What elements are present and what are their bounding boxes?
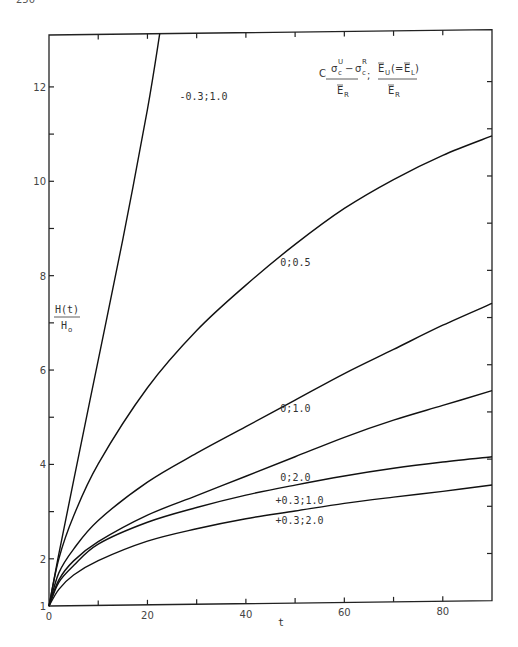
y-tick-label: 4 bbox=[40, 459, 46, 470]
svg-text:E: E bbox=[404, 63, 410, 74]
svg-text:(=: (= bbox=[391, 63, 403, 74]
svg-text:R: R bbox=[395, 91, 400, 99]
y-tick-label: 2 bbox=[40, 554, 46, 565]
x-tick-label: 0 bbox=[46, 611, 52, 622]
x-tick-label: 80 bbox=[436, 606, 449, 617]
curve-label: -0.3;1.0 bbox=[179, 91, 227, 102]
curve-labels: -0.3;1.00;0.50;1.00;2.0+0.3;1.0+0.3;2.0 bbox=[179, 91, 323, 527]
svg-text:E: E bbox=[388, 85, 394, 96]
y-axis-title-numerator: H(t) bbox=[55, 304, 79, 315]
svg-text:R: R bbox=[362, 58, 367, 66]
curve-label: 0;0.5 bbox=[280, 257, 310, 268]
x-tick-label: 20 bbox=[141, 610, 154, 621]
y-axis-title-denominator: H bbox=[61, 320, 67, 331]
chart: 020406080124681012 -0.3;1.00;0.50;1.00;2… bbox=[0, 0, 518, 647]
curve-0-1-0 bbox=[49, 303, 492, 606]
x-axis-title: t bbox=[278, 617, 284, 628]
svg-text:): ) bbox=[415, 63, 419, 74]
legend-separator: ; bbox=[367, 70, 370, 81]
curve-label: +0.3;2.0 bbox=[275, 515, 323, 526]
svg-text:E: E bbox=[337, 85, 343, 96]
legend-param2-numerator: E U (= E L ) bbox=[378, 63, 419, 77]
y-tick-label: 8 bbox=[40, 271, 46, 282]
svg-text:R: R bbox=[344, 91, 349, 99]
y-tick-label: 12 bbox=[33, 82, 46, 93]
ticks: 020406080124681012 bbox=[33, 30, 492, 622]
curve-label: +0.3;1.0 bbox=[275, 495, 323, 506]
y-tick-label: 1 bbox=[40, 601, 46, 612]
legend: C σ U c − σ R c E R ; E U (= E L ) bbox=[319, 58, 419, 99]
svg-text:σ: σ bbox=[355, 63, 362, 74]
curve--0-3-2-0 bbox=[49, 485, 492, 606]
svg-text:−: − bbox=[345, 63, 353, 74]
y-tick-label: 6 bbox=[40, 365, 46, 376]
curve-label: 0;2.0 bbox=[280, 472, 310, 483]
curves bbox=[49, 34, 492, 606]
y-axis-title: H(t) H o bbox=[54, 304, 80, 334]
legend-param1-numerator: σ U c − σ R c bbox=[331, 58, 367, 77]
y-tick-label: 10 bbox=[33, 176, 46, 187]
legend-param1-denominator: E R bbox=[337, 85, 349, 99]
plot-frame bbox=[49, 30, 492, 606]
curve-0-2-0 bbox=[49, 391, 492, 606]
svg-text:E: E bbox=[378, 63, 384, 74]
legend-prefix: C bbox=[319, 68, 326, 79]
svg-text:U: U bbox=[385, 69, 390, 77]
svg-text:σ: σ bbox=[331, 63, 338, 74]
x-tick-label: 40 bbox=[240, 609, 253, 620]
svg-text:c: c bbox=[338, 69, 342, 77]
y-axis-title-denominator-sub: o bbox=[68, 326, 72, 334]
svg-text:c: c bbox=[362, 69, 366, 77]
curve-label: 0;1.0 bbox=[280, 403, 310, 414]
x-tick-label: 60 bbox=[338, 607, 351, 618]
legend-param2-denominator: E R bbox=[388, 85, 400, 99]
svg-text:U: U bbox=[338, 58, 343, 66]
axes bbox=[49, 30, 492, 606]
